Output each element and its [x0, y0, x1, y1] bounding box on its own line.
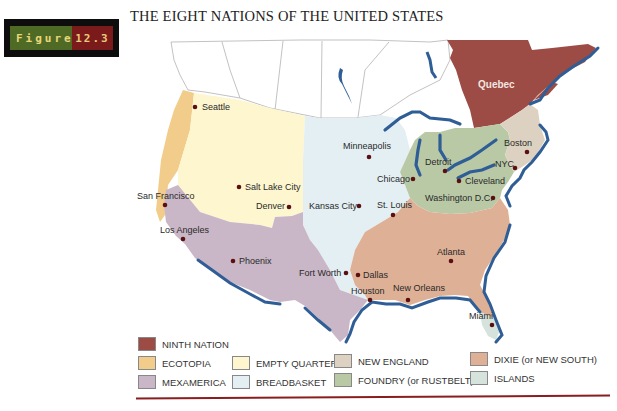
swatch-new-england	[334, 354, 352, 368]
svg-text:Phoenix: Phoenix	[239, 256, 272, 266]
city-nyc: NYC	[495, 159, 517, 170]
svg-text:NYC: NYC	[495, 159, 515, 169]
svg-text:Chicago: Chicago	[377, 174, 410, 184]
svg-text:Washington D.C.: Washington D.C.	[425, 193, 493, 203]
svg-text:Kansas City: Kansas City	[309, 201, 358, 211]
city-washington-dc: Washington D.C.	[425, 193, 495, 203]
city-salt-lake-city: Salt Lake City	[237, 182, 301, 192]
swatch-ninth-nation	[138, 337, 156, 351]
svg-text:St. Louis: St. Louis	[377, 200, 413, 210]
legend-item-ecotopia: ECOTOPIA	[138, 356, 211, 370]
svg-text:Detroit: Detroit	[425, 157, 452, 167]
svg-text:Denver: Denver	[256, 201, 285, 211]
swatch-dixie	[470, 352, 488, 366]
city-chicago: Chicago	[377, 174, 415, 184]
city-kansas-city: Kansas City	[309, 201, 361, 211]
svg-text:Cleveland: Cleveland	[465, 176, 505, 186]
svg-text:Boston: Boston	[504, 138, 532, 148]
legend-item-islands: ISLANDS	[470, 371, 535, 385]
svg-text:Minneapolis: Minneapolis	[343, 141, 392, 151]
svg-text:Seattle: Seattle	[202, 102, 230, 112]
svg-text:Miami: Miami	[469, 311, 493, 321]
svg-text:San Francisco: San Francisco	[137, 191, 195, 201]
legend-item-breadbasket: BREADBASKET	[232, 375, 326, 389]
nations-map: Quebec Seattle San Francisco Salt Lake C…	[0, 0, 617, 411]
legend-item-mexamerica: MEXAMERICA	[138, 375, 226, 389]
legend-item-foundry: FOUNDRY (or RUSTBELT)	[334, 373, 474, 387]
swatch-foundry	[334, 373, 352, 387]
region-empty-quarter	[178, 93, 305, 228]
legend-item-empty-quarter: EMPTY QUARTER	[232, 356, 337, 370]
svg-text:Los Angeles: Los Angeles	[160, 225, 210, 235]
city-miami: Miami	[469, 311, 494, 327]
svg-text:Dallas: Dallas	[363, 270, 389, 280]
swatch-breadbasket	[232, 375, 250, 389]
swatch-islands	[470, 371, 488, 385]
swatch-ecotopia	[138, 356, 156, 370]
city-fort-worth: Fort Worth	[299, 268, 348, 278]
quebec-label: Quebec	[478, 79, 515, 90]
legend-item-new-england: NEW ENGLAND	[334, 354, 429, 368]
svg-text:Salt Lake City: Salt Lake City	[245, 182, 301, 192]
svg-text:Atlanta: Atlanta	[437, 247, 465, 257]
swatch-mexamerica	[138, 375, 156, 389]
swatch-empty-quarter	[232, 356, 250, 370]
svg-text:Fort Worth: Fort Worth	[299, 268, 341, 278]
svg-text:New Orleans: New Orleans	[393, 283, 446, 293]
svg-text:Houston: Houston	[351, 286, 385, 296]
legend-item-dixie: DIXIE (or NEW SOUTH)	[470, 352, 597, 366]
legend-item-ninth-nation: NINTH NATION	[138, 337, 229, 351]
